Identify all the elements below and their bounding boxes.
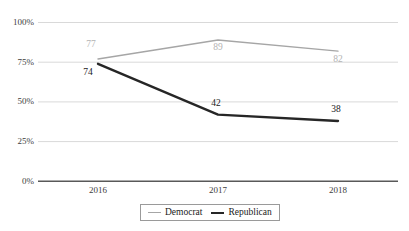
x-tick-label-2018: 2018 [315, 185, 361, 195]
data-label-republican-2016: 74 [75, 67, 101, 77]
data-label-republican-2018: 38 [323, 104, 349, 114]
legend-item-democrat[interactable]: Democrat [148, 208, 202, 218]
y-tick-label-75: 75% [0, 57, 34, 67]
legend-line-republican-icon [211, 212, 224, 214]
series-line-republican [98, 64, 338, 121]
legend-item-republican[interactable]: Republican [211, 208, 271, 218]
data-label-democrat-2017: 89 [205, 42, 231, 52]
y-tick-label-25: 25% [0, 136, 34, 146]
x-tick-label-2016: 2016 [75, 185, 121, 195]
data-label-democrat-2018: 82 [325, 54, 351, 64]
line-chart: 100% 75% 50% 25% 0% 2016 2017 2018 77 89… [0, 0, 409, 231]
y-tick-label-0: 0% [0, 176, 34, 186]
chart-plot-area [0, 0, 409, 231]
legend-line-democrat-icon [148, 212, 161, 213]
y-tick-label-50: 50% [0, 96, 34, 106]
chart-legend: Democrat Republican [140, 204, 280, 221]
x-tick-label-2017: 2017 [195, 185, 241, 195]
legend-label-republican: Republican [228, 208, 271, 218]
data-label-democrat-2016: 77 [78, 39, 104, 49]
data-label-republican-2017: 42 [203, 98, 229, 108]
y-tick-label-100: 100% [0, 17, 34, 27]
legend-label-democrat: Democrat [165, 208, 202, 218]
